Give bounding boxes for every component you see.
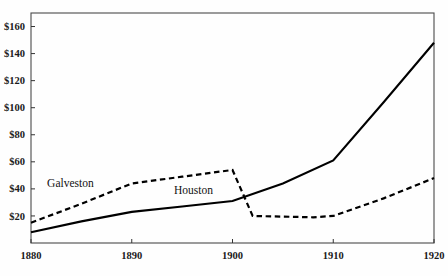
y-tick-label: $80 bbox=[9, 129, 25, 140]
y-tick-label: $20 bbox=[9, 211, 25, 222]
y-tick-label: $160 bbox=[4, 21, 25, 32]
x-tick-label: 1890 bbox=[121, 250, 142, 261]
y-axis-ticks: $20$40$60$80$100$120$140$160 bbox=[4, 21, 35, 221]
x-tick-label: 1880 bbox=[21, 250, 42, 261]
y-tick-label: $120 bbox=[4, 75, 25, 86]
y-tick-label: $60 bbox=[9, 156, 25, 167]
y-tick-label: $100 bbox=[4, 102, 25, 113]
y-tick-label: $40 bbox=[9, 183, 25, 194]
y-tick-label: $140 bbox=[4, 48, 25, 59]
line-chart: $20$40$60$80$100$120$140$160 18801890190… bbox=[0, 0, 448, 276]
plot-area-frame bbox=[31, 13, 434, 243]
x-tick-label: 1910 bbox=[323, 250, 344, 261]
chart-page: $20$40$60$80$100$120$140$160 18801890190… bbox=[0, 0, 448, 276]
series-label-galveston: Galveston bbox=[47, 177, 94, 189]
series-label-houston: Houston bbox=[174, 184, 213, 196]
x-tick-label: 1920 bbox=[424, 250, 445, 261]
x-tick-label: 1900 bbox=[222, 250, 243, 261]
